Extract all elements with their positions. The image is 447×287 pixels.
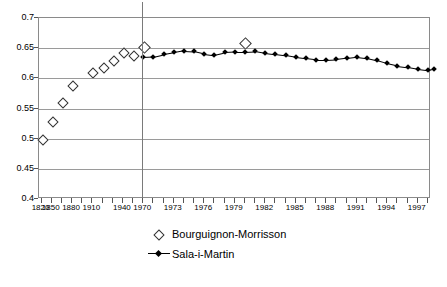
data-point-sala-i-martin (252, 48, 258, 54)
y-tick-label: 0.6 (21, 73, 34, 82)
data-point-sala-i-martin (344, 55, 350, 61)
data-point-sala-i-martin (415, 66, 421, 72)
gridline (39, 139, 429, 140)
x-tick-mark (152, 198, 153, 203)
x-tick-label: 1994 (372, 204, 400, 212)
y-tick-label: 0.65 (16, 43, 34, 52)
data-point-bourguignon-morrisson (57, 98, 68, 109)
x-tick-label: 1982 (250, 204, 278, 212)
vertical-reference-line-1970 (142, 2, 143, 198)
legend-label: Bourguignon-Morrisson (172, 229, 286, 240)
data-point-bourguignon-morrisson (128, 50, 139, 61)
gridline (39, 78, 429, 79)
open-diamond-icon (153, 229, 164, 240)
chart-legend: Bourguignon-Morrisson Sala-i-Martin (0, 226, 447, 266)
data-point-sala-i-martin (313, 57, 319, 63)
data-point-sala-i-martin (262, 50, 268, 56)
x-tick-label: 1979 (220, 204, 248, 212)
x-tick-mark (213, 198, 214, 203)
data-point-bourguignon-morrisson (47, 116, 58, 127)
y-tick-label: 0.7 (21, 13, 34, 22)
x-axis-labels: 1820185018801910194019701973197619791982… (0, 204, 447, 218)
x-tick-mark (335, 198, 336, 203)
data-point-sala-i-martin (293, 54, 299, 60)
x-tick-mark (305, 198, 306, 203)
data-point-bourguignon-morrisson (118, 48, 129, 59)
x-tick-label: 1973 (159, 204, 187, 212)
data-point-bourguignon-morrisson (67, 80, 78, 91)
data-point-bourguignon-morrisson (88, 67, 99, 78)
data-point-sala-i-martin (212, 52, 218, 58)
data-point-sala-i-martin (283, 53, 289, 59)
data-point-sala-i-martin (171, 50, 177, 56)
data-point-sala-i-martin (191, 48, 197, 54)
data-point-sala-i-martin (425, 67, 431, 73)
x-tick-mark (244, 198, 245, 203)
data-point-sala-i-martin (303, 56, 309, 62)
data-point-sala-i-martin (151, 54, 157, 60)
data-point-sala-i-martin (405, 64, 411, 70)
data-point-sala-i-martin (232, 49, 238, 55)
x-tick-mark (274, 198, 275, 203)
plot-area (38, 17, 430, 198)
gridline (39, 169, 429, 170)
x-tick-mark (427, 198, 428, 203)
x-tick-mark (396, 198, 397, 203)
x-tick-label: 1991 (342, 204, 370, 212)
data-point-bourguignon-morrisson (108, 56, 119, 67)
data-point-sala-i-martin (334, 56, 340, 62)
y-tick-label: 0.45 (16, 164, 34, 173)
x-tick-label: 1976 (189, 204, 217, 212)
legend-entry-sala-i-martin: Sala-i-Martin (0, 246, 447, 266)
y-tick-label: 0.4 (21, 194, 34, 203)
data-point-bourguignon-morrisson (37, 134, 48, 145)
data-point-sala-i-martin (431, 66, 437, 72)
legend-label: Sala-i-Martin (172, 249, 234, 260)
data-point-sala-i-martin (161, 51, 167, 57)
data-point-bourguignon-morrisson (138, 42, 151, 55)
data-point-sala-i-martin (273, 51, 279, 57)
legend-entry-bourguignon-morrisson: Bourguignon-Morrisson (0, 226, 447, 246)
data-point-bourguignon-morrisson (98, 63, 109, 74)
data-point-sala-i-martin (323, 57, 329, 63)
x-tick-label: 1988 (311, 204, 339, 212)
x-tick-label: 1910 (77, 204, 105, 212)
filled-diamond-icon (155, 250, 162, 257)
x-tick-mark (183, 198, 184, 203)
x-tick-label: 1970 (128, 204, 156, 212)
data-point-sala-i-martin (395, 63, 401, 69)
x-tick-mark (366, 198, 367, 203)
x-tick-mark (102, 198, 103, 203)
x-tick-label: 1985 (281, 204, 309, 212)
data-point-sala-i-martin (201, 51, 207, 57)
chart-figure: 0.70.650.60.550.50.450.4 182018501880191… (0, 0, 447, 287)
y-tick-label: 0.55 (16, 104, 34, 113)
data-point-sala-i-martin (364, 55, 370, 61)
data-point-sala-i-martin (222, 50, 228, 56)
data-point-sala-i-martin (354, 54, 360, 60)
data-point-sala-i-martin (374, 57, 380, 63)
x-tick-label: 1997 (403, 204, 431, 212)
data-point-sala-i-martin (384, 60, 390, 66)
gridline (39, 109, 429, 110)
y-tick-label: 0.5 (21, 134, 34, 143)
